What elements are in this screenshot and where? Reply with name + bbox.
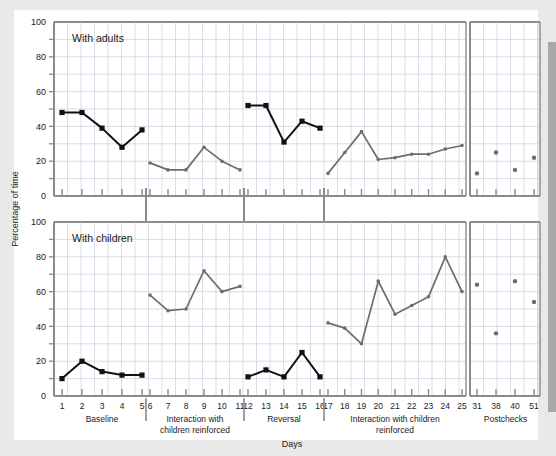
x-tick-label: 24 [441,401,451,411]
phase-label: Interaction with [166,414,223,424]
x-tick-label: 1 [60,401,65,411]
data-point [410,152,414,156]
x-tick-label: 13 [261,401,271,411]
x-tick-label: 4 [120,401,125,411]
panel-label-with-children: With children [72,232,133,244]
chart-svg: 020406080100020406080100With adultsWith … [0,0,556,456]
y-tick-label: 80 [36,52,46,62]
data-point [99,369,104,374]
y-tick-label: 40 [36,322,46,332]
phase-label: Interaction with children [350,414,440,424]
data-point [299,350,304,355]
x-tick-label: 14 [279,401,289,411]
x-ticks-panel-0 [62,189,534,196]
y-tick-label: 20 [36,156,46,166]
x-tick-label: 7 [166,401,171,411]
phase-labels: BaselineInteraction withchildren reinfor… [86,414,528,435]
data-point [494,331,498,335]
data-point [119,373,124,378]
x-tick-labels: 1234567891011121314151617181920212223242… [60,401,539,411]
data-point [393,312,397,316]
x-tick-label: 22 [407,401,417,411]
data-point [532,156,536,160]
data-point [79,110,84,115]
data-point [263,367,268,372]
x-tick-label-postcheck: 40 [510,401,520,411]
y-tick-label: 100 [31,217,46,227]
y-axis-title: Percentage of time [10,171,20,247]
data-point [460,144,464,148]
x-tick-label: 8 [184,401,189,411]
data-point [148,293,152,297]
data-point [184,307,188,311]
series-line [328,257,462,344]
series-line [328,132,462,174]
data-point [238,168,242,172]
data-point [532,300,536,304]
data-point [79,359,84,364]
x-tick-label: 6 [148,401,153,411]
x-tick-label: 3 [100,401,105,411]
data-point [427,295,431,299]
y-tick-label: 80 [36,252,46,262]
data-point [376,279,380,283]
series-line [150,147,240,170]
x-tick-label-postcheck: 31 [472,401,482,411]
x-tick-label: 5 [140,401,145,411]
phase-label-line2: children reinforced [160,425,230,435]
x-axis-title: Days [282,439,303,449]
data-point [245,374,250,379]
data-point [443,255,447,259]
data-point [494,150,498,154]
data-point [59,110,64,115]
panel-with-adults-grid [54,22,540,196]
x-tick-label: 21 [390,401,400,411]
data-point [59,376,64,381]
x-tick-label-postcheck: 51 [529,401,539,411]
y-tick-label: 0 [41,191,46,201]
data-point [376,158,380,162]
y-tick-label: 60 [36,287,46,297]
x-tick-label: 10 [217,401,227,411]
phase-label: Baseline [86,414,119,424]
data-point [99,126,104,131]
series-line [150,271,240,311]
x-tick-label: 23 [424,401,434,411]
data-point [475,171,479,175]
data-point [343,151,347,155]
phase-label-line2: reinforced [376,425,414,435]
phase-label: Reversal [267,414,301,424]
series-line [248,353,320,377]
x-tick-label: 25 [457,401,467,411]
y-tick-label: 20 [36,356,46,366]
data-point [281,374,286,379]
data-point [220,159,224,163]
y-tick-label: 0 [41,391,46,401]
data-point [326,321,330,325]
data-point [460,290,464,294]
data-point [317,374,322,379]
data-point [139,127,144,132]
y-tick-label: 40 [36,122,46,132]
data-point [360,342,364,346]
panel-label-with-adults: With adults [72,32,124,44]
series-with-adults [59,103,536,176]
data-point [184,168,188,172]
data-point [220,290,224,294]
chart-figure: 020406080100020406080100With adultsWith … [0,0,556,456]
data-point [299,119,304,124]
series-line [248,106,320,143]
data-point [410,304,414,308]
data-point [343,326,347,330]
data-point [119,145,124,150]
data-point [148,161,152,165]
data-point [202,269,206,273]
data-point [245,103,250,108]
data-point [427,152,431,156]
data-point [202,145,206,149]
y-tick-label: 60 [36,87,46,97]
data-point [326,172,330,176]
phase-label: Postchecks [484,414,527,424]
x-tick-label-postcheck: 38 [491,401,501,411]
data-point [281,139,286,144]
